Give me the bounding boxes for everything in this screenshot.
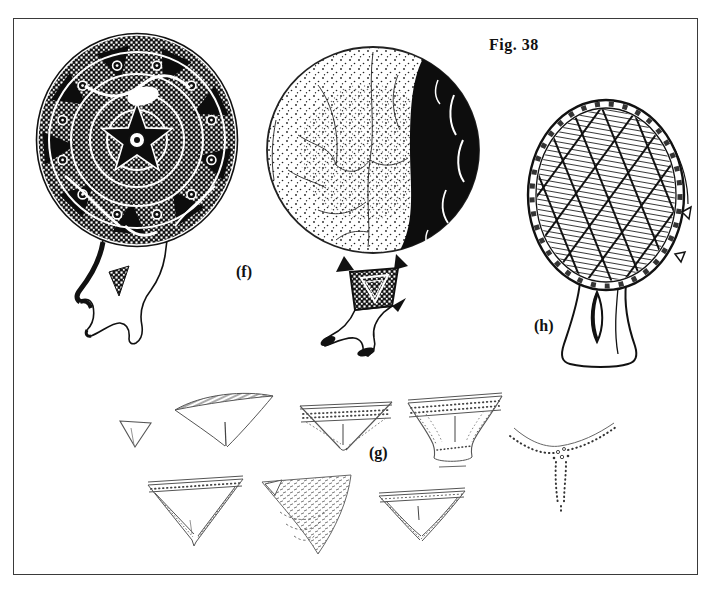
disc-stem <box>77 240 167 344</box>
gourd-h-stem <box>562 282 636 367</box>
pendant-triangle-1-drawing <box>118 418 154 450</box>
pendant-triangle-7-drawing <box>376 484 468 548</box>
pendant-triangle-2-drawing <box>172 388 276 450</box>
figure-page: Fig. 38 (f) (g) (h) <box>0 0 714 593</box>
pendant-funnel-4-drawing <box>406 390 504 470</box>
panel-label-g: (g) <box>369 444 388 462</box>
pendant-triangle-5-drawing <box>146 472 246 550</box>
panel-label-f: (f) <box>236 263 252 281</box>
gourd-f-head <box>267 47 479 253</box>
disc-head <box>37 34 237 246</box>
stippled-gourd-drawing-f <box>258 40 488 360</box>
decorated-disc-gourd-drawing <box>25 26 250 346</box>
panel-label-h: (h) <box>534 317 554 335</box>
gourd-f-stem <box>319 254 408 358</box>
dotted-rim-motif-8-drawing <box>506 416 622 518</box>
figure-title: Fig. 38 <box>489 36 539 54</box>
pendant-triangle-6-drawing <box>258 470 358 560</box>
